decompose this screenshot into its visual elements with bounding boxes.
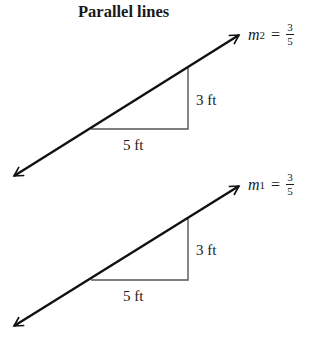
slope-var: m xyxy=(248,176,260,194)
slope-label-m2: m2 = 3 5 xyxy=(248,22,294,47)
numerator: 3 xyxy=(287,172,293,183)
slope-label-m1: m1 = 3 5 xyxy=(248,172,294,197)
equals-sign: = xyxy=(271,176,280,194)
rise-label-1: 3 ft xyxy=(196,242,216,259)
numerator: 3 xyxy=(287,22,293,33)
run-label-2: 5 ft xyxy=(123,137,143,154)
equals-sign: = xyxy=(271,26,280,44)
rise-label-2: 3 ft xyxy=(196,92,216,109)
slope-subscript: 2 xyxy=(260,29,266,41)
slope-fraction: 3 5 xyxy=(286,172,294,197)
slope-var: m xyxy=(248,26,260,44)
slope-subscript: 1 xyxy=(260,179,266,191)
denominator: 5 xyxy=(287,36,293,47)
denominator: 5 xyxy=(287,186,293,197)
run-label-1: 5 ft xyxy=(123,288,143,305)
slope-fraction: 3 5 xyxy=(286,22,294,47)
